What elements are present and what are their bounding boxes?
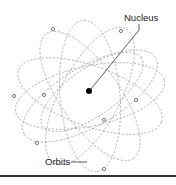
electron — [102, 167, 105, 170]
electron — [119, 29, 122, 32]
electrons-group — [12, 27, 137, 170]
bottom-rule — [0, 175, 176, 177]
nucleus-leader-line — [91, 24, 139, 89]
electron — [102, 118, 105, 121]
orbit-4 — [53, 18, 126, 175]
electron — [134, 98, 137, 101]
orbit-5 — [28, 15, 152, 177]
nucleus-label: Nucleus — [124, 12, 158, 23]
electron — [42, 93, 45, 96]
electron — [35, 141, 38, 144]
orbit-7 — [29, 38, 155, 146]
atom-diagram — [0, 0, 176, 185]
orbits-group — [8, 15, 171, 177]
orbits-label: Orbits — [45, 156, 70, 167]
orbit-6 — [9, 32, 171, 160]
orbit-2 — [8, 42, 171, 150]
electron — [51, 27, 54, 30]
electron — [12, 94, 15, 97]
